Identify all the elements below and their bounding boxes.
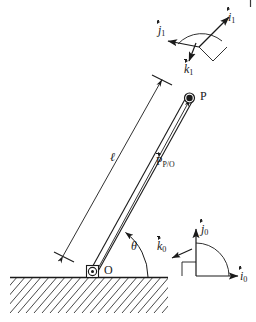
vector-arrow-overbar <box>157 236 160 237</box>
position-vector-head: P <box>156 155 162 167</box>
label-k0: k0 <box>157 240 166 254</box>
label-j1: j1 <box>158 24 165 38</box>
frame0-arc <box>196 243 229 276</box>
label-i0: i0 <box>240 270 247 284</box>
k1-symbol: k <box>184 63 189 75</box>
j0-symbol: j <box>201 223 204 235</box>
ground-hatching <box>0 276 202 320</box>
length-dimension <box>54 75 172 262</box>
vector-arrow-overbar <box>184 59 187 60</box>
k0-symbol: k <box>157 240 162 252</box>
point-p-marker <box>185 93 195 103</box>
vector-arrow-overbar <box>201 219 202 220</box>
position-vector-symbol: P <box>156 156 162 168</box>
label-point-o: O <box>104 264 113 276</box>
j1-symbol: j <box>158 24 161 36</box>
frame1-arc <box>178 34 222 44</box>
rod-body <box>90 98 194 275</box>
label-theta: θ <box>131 240 137 252</box>
position-vector-subscript: P/O <box>162 160 174 169</box>
vector-arrow-overbar <box>240 266 241 267</box>
vector-arrow-overbar <box>158 20 159 21</box>
label-rod-length: ℓ <box>110 151 115 163</box>
i1-symbol: i <box>228 11 231 23</box>
position-vector-arrow <box>95 100 190 275</box>
label-position-vector: PP/O <box>156 156 175 169</box>
vector-arrow-overbar <box>228 7 229 8</box>
label-i1: i1 <box>228 11 235 25</box>
pivot-joint-o <box>87 266 99 278</box>
mechanics-diagram: P O ℓ θ PP/O i1 j1 k1 j0 i0 k0 <box>0 0 256 322</box>
vector-arrow-overbar <box>156 153 160 154</box>
label-k1: k1 <box>184 63 193 77</box>
diagram-canvas <box>0 0 256 322</box>
label-j0: j0 <box>201 223 208 237</box>
label-point-p: P <box>200 90 207 102</box>
i0-symbol: i <box>240 270 243 282</box>
